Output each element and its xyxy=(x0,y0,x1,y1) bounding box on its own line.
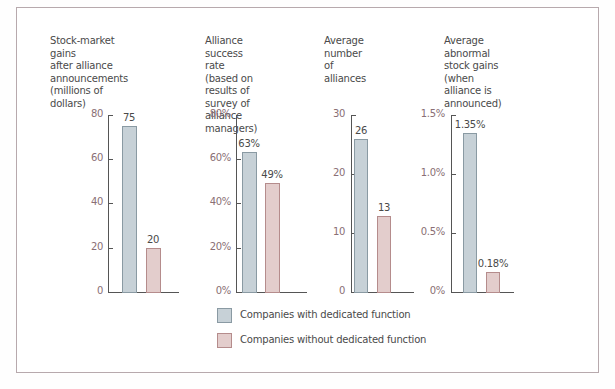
bar-with-function xyxy=(122,126,137,293)
tick-label: 0.5% xyxy=(409,226,445,237)
panel-title: Average abnormal stock gains (when allia… xyxy=(444,35,502,110)
tick-label: 40 xyxy=(67,196,103,207)
tick-label: 1.5% xyxy=(409,108,445,119)
legend-label: Companies with dedicated function xyxy=(240,309,410,320)
tick-label: 60% xyxy=(195,152,231,163)
value-label: 13 xyxy=(364,202,404,213)
value-label: 63% xyxy=(229,138,269,149)
bar-without-function xyxy=(146,248,161,293)
value-label: 49% xyxy=(252,169,292,180)
tick-label: 30 xyxy=(309,108,345,119)
axis-tick xyxy=(236,115,241,116)
axis-tick xyxy=(108,248,113,249)
chart-frame: Stock-market gains after alliance announ… xyxy=(16,7,599,373)
tick-label: 0 xyxy=(67,285,103,296)
legend-label: Companies without dedicated function xyxy=(240,334,426,345)
tick-label: 60 xyxy=(67,152,103,163)
value-label: 20 xyxy=(133,234,173,245)
axis-tick xyxy=(108,203,113,204)
legend-swatch xyxy=(217,308,232,323)
axis-tick xyxy=(451,174,456,175)
tick-label: 80 xyxy=(67,108,103,119)
tick-label: 20% xyxy=(195,241,231,252)
tick-label: 20 xyxy=(309,167,345,178)
bar-with-function xyxy=(463,133,477,293)
axis-tick xyxy=(451,115,456,116)
value-label: 26 xyxy=(341,125,381,136)
tick-label: 20 xyxy=(67,241,103,252)
bar-without-function xyxy=(377,216,391,293)
panel-title: Stock-market gains after alliance announ… xyxy=(50,35,128,110)
bar-without-function xyxy=(486,272,500,293)
tick-label: 0 xyxy=(309,285,345,296)
legend-swatch xyxy=(217,333,232,348)
tick-label: 40% xyxy=(195,196,231,207)
tick-label: 80% xyxy=(195,108,231,119)
tick-label: 0% xyxy=(409,285,445,296)
tick-label: 0% xyxy=(195,285,231,296)
axis-tick xyxy=(236,159,241,160)
value-label: 1.35% xyxy=(450,119,490,130)
tick-label: 10 xyxy=(309,226,345,237)
y-axis xyxy=(108,115,179,293)
value-label: 0.18% xyxy=(473,258,513,269)
bar-without-function xyxy=(265,183,280,293)
axis-tick xyxy=(236,248,241,249)
axis-tick xyxy=(236,203,241,204)
panel-title: Average number of alliances xyxy=(324,35,366,85)
bar-with-function xyxy=(354,139,368,293)
axis-tick xyxy=(108,159,113,160)
axis-tick xyxy=(351,115,356,116)
axis-tick xyxy=(451,233,456,234)
tick-label: 1.0% xyxy=(409,167,445,178)
value-label: 75 xyxy=(109,112,149,123)
